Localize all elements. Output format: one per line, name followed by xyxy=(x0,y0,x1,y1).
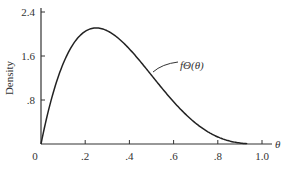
y-tick-label: .8 xyxy=(27,94,36,106)
curve-label: fΘ(θ) xyxy=(180,59,204,72)
x-tick-label: 1.0 xyxy=(255,150,269,162)
x-axis-title: θ xyxy=(275,138,281,150)
x-tick-label: .2 xyxy=(81,150,89,162)
x-tick-label: .4 xyxy=(125,150,134,162)
annotation-leader xyxy=(153,62,178,72)
density-chart: 0.2.4.6.81.0 .81.62.4 fΘ(θ) θ Density xyxy=(0,0,284,171)
axes xyxy=(41,8,272,144)
x-tick-label: 0 xyxy=(32,150,38,162)
x-tick-label: .6 xyxy=(169,150,178,162)
density-curve xyxy=(41,28,247,144)
y-tick-label: 1.6 xyxy=(21,50,35,62)
y-tick-label: 2.4 xyxy=(21,6,35,18)
x-ticks: 0.2.4.6.81.0 xyxy=(32,140,269,162)
y-axis-title: Density xyxy=(3,60,15,95)
x-tick-label: .8 xyxy=(214,150,223,162)
